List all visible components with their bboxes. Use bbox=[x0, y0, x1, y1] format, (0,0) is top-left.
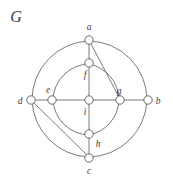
chord-edges bbox=[33, 42, 120, 156]
edge-a-g bbox=[90, 42, 120, 99]
vertex-label-d: d bbox=[18, 96, 23, 106]
edge-d-a bbox=[32, 41, 89, 100]
vertex-label-e: e bbox=[46, 85, 50, 95]
edge-g-h bbox=[89, 100, 119, 135]
vertex-label-b: b bbox=[156, 96, 161, 106]
vertex-i[interactable] bbox=[85, 96, 93, 104]
edge-h-e bbox=[53, 100, 89, 135]
graph-figure: a b c d e f g h i G bbox=[0, 0, 173, 183]
edge-d-c bbox=[33, 102, 88, 156]
vertex-b[interactable] bbox=[144, 96, 152, 104]
vertex-a[interactable] bbox=[85, 36, 93, 44]
vertex-c[interactable] bbox=[85, 154, 93, 162]
vertex-f[interactable] bbox=[85, 59, 93, 67]
vertex-label-i: i bbox=[84, 107, 87, 117]
vertex-d[interactable] bbox=[27, 96, 35, 104]
vertex-label-f: f bbox=[84, 70, 88, 80]
vertex-label-g: g bbox=[117, 86, 122, 96]
vertex-h[interactable] bbox=[85, 130, 93, 138]
vertex-label-c: c bbox=[87, 166, 92, 176]
graph-canvas: a b c d e f g h i G bbox=[0, 0, 173, 183]
vertex-g[interactable] bbox=[116, 96, 124, 104]
vertex-label-h: h bbox=[96, 139, 101, 149]
vertex-label-a: a bbox=[87, 22, 92, 32]
vertices bbox=[27, 36, 152, 162]
vertex-e[interactable] bbox=[48, 96, 56, 104]
graph-name-label: G bbox=[10, 8, 22, 25]
